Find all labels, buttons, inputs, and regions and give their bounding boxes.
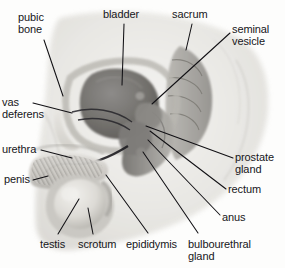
label-epididymis: epididymis bbox=[126, 239, 177, 251]
label-scrotum: scrotum bbox=[78, 239, 116, 251]
label-pubic-bone: pubic bone bbox=[18, 12, 44, 35]
label-bulbourethral: bulbourethral gland bbox=[188, 239, 251, 262]
label-penis: penis bbox=[4, 174, 30, 186]
label-rectum: rectum bbox=[228, 184, 261, 196]
region-testis bbox=[54, 179, 106, 229]
label-anus: anus bbox=[222, 212, 245, 224]
region-bulbourethral-gland bbox=[136, 148, 146, 157]
anatomy-figure: pubic bonebladdersacrumseminal vesicleva… bbox=[0, 0, 285, 268]
label-bladder: bladder bbox=[103, 9, 139, 21]
label-sacrum: sacrum bbox=[172, 9, 207, 21]
label-urethra: urethra bbox=[2, 144, 36, 156]
label-vas-deferens: vas deferens bbox=[2, 97, 44, 120]
label-prostate-gland: prostate gland bbox=[235, 152, 274, 175]
label-testis: testis bbox=[40, 239, 65, 251]
label-seminal-vesicle: seminal vesicle bbox=[232, 24, 269, 47]
